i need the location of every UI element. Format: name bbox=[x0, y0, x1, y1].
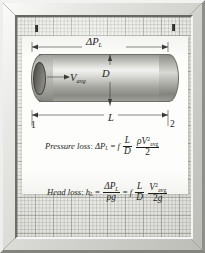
ld-ratio-denominator: D bbox=[123, 146, 132, 157]
equation-head-loss-lhs-sub: L bbox=[90, 191, 93, 197]
label-pressure-drop-subscript: L bbox=[99, 41, 103, 48]
label-pressure-drop-symbol: ΔP bbox=[86, 36, 99, 47]
length-dimension-line bbox=[32, 110, 168, 126]
label-velocity-subscript: avg bbox=[76, 77, 85, 84]
equation-head-loss-ld-ratio: L D bbox=[135, 182, 144, 203]
head-loss-first-numerator: ΔPL bbox=[103, 182, 119, 192]
paper-pin-left-icon bbox=[35, 25, 38, 32]
equation-head-loss-friction-factor: f bbox=[130, 187, 132, 197]
equation-pressure-loss-friction-factor: f bbox=[117, 141, 119, 151]
dimension-lines-layer bbox=[22, 36, 188, 194]
equation-pressure-loss-lhs-sub: L bbox=[105, 145, 108, 151]
ld-ratio-numerator-2: L bbox=[135, 182, 144, 192]
velocity-head-denominator: 2g bbox=[148, 193, 167, 204]
equation-pressure-loss-dynamic-pressure: ρV2avg 2 bbox=[136, 136, 160, 157]
paper-pin-right-icon bbox=[172, 24, 175, 31]
equation-head-loss: Head loss: hL = ΔPL ρg = f L D V2avg 2g bbox=[47, 182, 168, 203]
equation-head-loss-equals-2: = bbox=[123, 187, 128, 197]
velocity-subscript-2: avg bbox=[158, 187, 166, 193]
equation-pressure-loss-lhs: ΔP bbox=[95, 141, 105, 151]
equation-head-loss-equals: = bbox=[95, 187, 100, 197]
equation-pressure-loss: Pressure loss: ΔPL = f L D ρV2avg 2 bbox=[45, 136, 160, 157]
label-average-velocity: Vavg bbox=[70, 72, 86, 84]
equation-pressure-loss-name: Pressure loss bbox=[45, 141, 90, 151]
label-station-2: 2 bbox=[170, 119, 175, 129]
ld-ratio-denominator-2: D bbox=[135, 192, 144, 203]
dynamic-pressure-denominator: 2 bbox=[136, 147, 160, 158]
equation-head-loss-name: Head loss bbox=[47, 187, 81, 197]
equation-pressure-loss-equals: = bbox=[110, 141, 115, 151]
flow-direction-arrow bbox=[47, 75, 70, 80]
equation-pressure-loss-ld-ratio: L D bbox=[123, 136, 132, 157]
delta-p-symbol: ΔP bbox=[104, 181, 115, 191]
diameter-dimension-line bbox=[108, 54, 112, 106]
equation-head-loss-first-fraction: ΔPL ρg bbox=[103, 182, 119, 203]
velocity-head-numerator: V2avg bbox=[148, 182, 167, 193]
ld-ratio-numerator: L bbox=[123, 136, 132, 146]
equation-head-loss-velocity-head: V2avg 2g bbox=[148, 182, 167, 203]
picture-frame: ΔPL D L 1 2 Vavg Pressure loss: ΔPL = f … bbox=[0, 0, 205, 253]
gravity-symbol-2: g bbox=[158, 193, 163, 203]
label-station-1: 1 bbox=[31, 120, 36, 130]
dynamic-pressure-numerator: ρV2avg bbox=[136, 136, 160, 147]
label-diameter: D bbox=[102, 68, 110, 79]
label-pressure-drop: ΔPL bbox=[86, 36, 102, 48]
label-length: L bbox=[108, 112, 114, 123]
head-loss-first-denominator: ρg bbox=[103, 192, 119, 203]
gravity-symbol: g bbox=[111, 192, 116, 202]
delta-p-subscript: L bbox=[115, 186, 118, 192]
velocity-subscript: avg bbox=[150, 141, 158, 147]
